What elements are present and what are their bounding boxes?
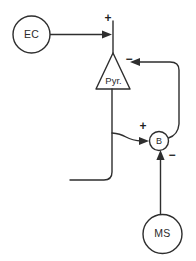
node-ms[interactable]: MS	[143, 215, 182, 254]
arrowhead-ec-to-pyr	[102, 30, 112, 38]
node-pyr-label: Pyr.	[105, 75, 121, 86]
sign-ms-to-b-minus: −	[168, 148, 175, 162]
sign-b-to-pyr-minus: −	[125, 52, 132, 66]
connection-b-to-pyr	[130, 58, 179, 138]
connection-ec-to-pyr	[50, 30, 112, 38]
circuit-diagram: Pyr. EC B	[0, 0, 196, 261]
sign-ec-to-pyr-plus: +	[104, 11, 111, 25]
sign-pyr-to-b-plus: +	[139, 119, 146, 133]
edge-pyr-to-b-line	[112, 133, 142, 141]
node-ms-label: MS	[154, 227, 170, 239]
connection-pyr-to-b	[112, 133, 149, 145]
node-b-label: B	[156, 136, 162, 146]
node-ec[interactable]: EC	[13, 16, 50, 53]
pyr-axon-output-line	[70, 89, 112, 180]
connection-pyr-output	[70, 89, 112, 180]
arrowhead-pyr-to-b	[139, 137, 149, 145]
connection-ms-to-b	[156, 150, 164, 215]
arrowhead-ms-to-b	[156, 150, 164, 160]
node-ec-label: EC	[24, 28, 39, 40]
node-b[interactable]: B	[150, 132, 169, 151]
circuit-canvas: Pyr. EC B	[0, 0, 196, 261]
